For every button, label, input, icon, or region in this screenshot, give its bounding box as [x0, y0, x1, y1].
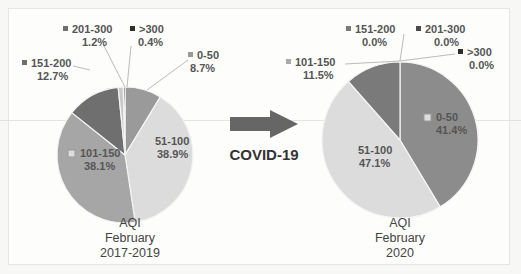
svg-text:AQI: AQI	[119, 216, 141, 230]
svg-text:February: February	[375, 231, 426, 245]
svg-text:151-200: 151-200	[31, 57, 71, 69]
svg-text:0-50: 0-50	[436, 111, 458, 123]
svg-text:>300: >300	[139, 23, 164, 35]
svg-text:2017-2019: 2017-2019	[100, 246, 160, 260]
svg-text:0.0%: 0.0%	[434, 36, 459, 48]
svg-text:101-150: 101-150	[80, 147, 120, 159]
svg-text:February: February	[105, 231, 156, 245]
pie-chart-2020	[322, 62, 478, 218]
svg-text:101-150: 101-150	[295, 56, 335, 68]
svg-text:0.0%: 0.0%	[362, 36, 387, 48]
arrow-icon	[230, 110, 298, 138]
svg-text:47.1%: 47.1%	[359, 157, 390, 169]
svg-text:51-100: 51-100	[155, 135, 189, 147]
svg-text:151-200: 151-200	[355, 23, 395, 35]
svg-text:201-300: 201-300	[72, 23, 112, 35]
svg-text:AQI: AQI	[389, 216, 411, 230]
svg-text:38.1%: 38.1%	[84, 160, 115, 172]
svg-text:8.7%: 8.7%	[190, 62, 215, 74]
svg-text:1.2%: 1.2%	[82, 36, 107, 48]
svg-text:0-50: 0-50	[197, 49, 219, 61]
svg-text:201-300: 201-300	[425, 23, 465, 35]
svg-text:12.7%: 12.7%	[37, 70, 68, 82]
svg-text:>300: >300	[467, 46, 492, 58]
svg-text:2020: 2020	[386, 246, 414, 260]
svg-text:0.0%: 0.0%	[469, 59, 494, 71]
svg-text:38.9%: 38.9%	[157, 148, 188, 160]
covid-label: COVID-19	[229, 146, 298, 163]
svg-text:0.4%: 0.4%	[138, 36, 163, 48]
svg-text:11.5%: 11.5%	[303, 69, 334, 81]
svg-text:41.4%: 41.4%	[436, 124, 467, 136]
pie-charts: COVID-19 201-300 1.2% >300 0.4% 0-50 8.7…	[0, 0, 521, 274]
svg-text:51-100: 51-100	[358, 144, 392, 156]
